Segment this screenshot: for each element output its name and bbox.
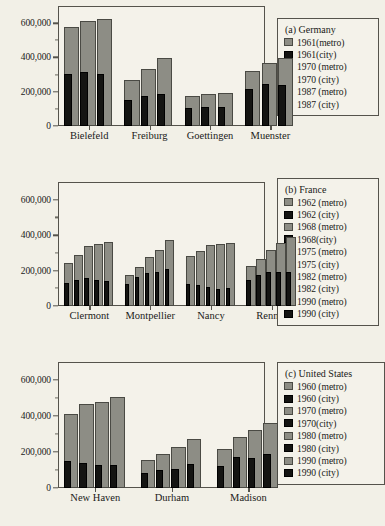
legend-item: 1990 (city): [284, 308, 372, 320]
y-axis-tick-mark: [53, 487, 58, 488]
bar-city: [135, 277, 140, 306]
y-axis-minor-tick: [55, 217, 58, 218]
legend-item: 1960 (metro): [284, 380, 378, 392]
legend-item-label: 1962 (city): [297, 209, 339, 220]
bar-city: [233, 457, 240, 488]
bar-city: [206, 287, 211, 306]
x-axis-category-label: Bielefeld: [70, 130, 108, 141]
y-axis-tick-mark: [53, 234, 58, 235]
bar-city: [187, 464, 194, 488]
x-axis-category-label: Muenster: [251, 130, 291, 141]
bar-city: [186, 284, 191, 306]
x-axis-tick-mark: [89, 306, 90, 310]
y-axis-tick-mark: [53, 125, 58, 126]
bar-city: [196, 285, 201, 306]
legend-item-label: 1987 (metro): [297, 86, 347, 97]
legend-item-label: 1990 (metro): [297, 296, 347, 307]
plot-area-germany: 0200,000400,000600,000BielefeldFreiburgG…: [58, 6, 265, 126]
legend-item-label: 1970 (metro): [297, 405, 347, 416]
legend-item: 1982 (city): [284, 283, 372, 295]
y-axis-tick-mark: [53, 451, 58, 452]
chart-panel-germany: 0200,000400,000600,000BielefeldFreiburgG…: [0, 0, 385, 168]
bar-city: [276, 272, 281, 306]
legend-item-label: 1968(city): [297, 234, 336, 245]
y-axis-tick-label: 600,000: [21, 195, 51, 205]
bar-city: [185, 108, 193, 126]
legend-item-label: 1980 (city): [297, 443, 339, 454]
y-axis-tick-mark: [53, 199, 58, 200]
legend-item-label: 1990 (city): [297, 308, 339, 319]
x-axis-tick-mark: [95, 488, 96, 492]
y-axis-minor-tick: [55, 74, 58, 75]
y-axis-minor-tick: [55, 433, 58, 434]
bar-city: [226, 288, 231, 306]
bar-city: [64, 283, 69, 306]
y-axis-tick-mark: [53, 305, 58, 306]
plot-area-united-states: 0200,000400,000600,000New HavenDurhamMad…: [58, 362, 265, 488]
bar-city: [84, 278, 89, 306]
legend-item: 1980 (metro): [284, 430, 378, 442]
bar-city: [145, 273, 150, 306]
legend-swatch-metro: [284, 223, 293, 231]
bar-city: [80, 72, 88, 126]
x-axis-tick-mark: [270, 126, 271, 130]
legend-swatch-city: [284, 469, 293, 477]
legend-item: 1970(city): [284, 417, 378, 429]
bar-city: [110, 465, 117, 488]
legend-item-label: 1961(metro): [297, 37, 344, 48]
legend-item: 1990 (city): [284, 467, 378, 479]
x-axis-category-label: Nancy: [197, 310, 224, 321]
x-axis-category-label: Montpellier: [125, 310, 175, 321]
y-axis-minor-tick: [55, 288, 58, 289]
legend-item: 1970 (city): [284, 73, 372, 85]
y-axis-tick-label: 0: [46, 121, 51, 131]
legend-swatch-city: [284, 395, 293, 403]
legend-item-label: 1975 (metro): [297, 246, 347, 257]
x-axis-tick-mark: [272, 306, 273, 310]
y-axis-tick-mark: [53, 415, 58, 416]
y-axis-tick-label: 400,000: [21, 230, 51, 240]
legend-swatch-metro: [284, 407, 293, 415]
legend-item-label: 1962 (metro): [297, 197, 347, 208]
y-axis-tick-label: 200,000: [21, 87, 51, 97]
bar-group: Nancy: [186, 182, 237, 306]
legend-item: 1970 (metro): [284, 61, 372, 73]
bar-city: [256, 275, 261, 306]
legend-item-label: 1970 (metro): [297, 61, 347, 72]
bar-city: [97, 74, 105, 126]
x-axis-tick-mark: [150, 306, 151, 310]
x-axis-category-label: Madison: [230, 492, 267, 503]
legend-swatch-metro: [284, 457, 293, 465]
bar-city: [165, 269, 170, 306]
legend-swatch-metro: [284, 38, 293, 46]
legend-swatch-city: [284, 211, 293, 219]
x-axis-category-label: New Haven: [70, 492, 120, 503]
y-axis-tick-mark: [53, 379, 58, 380]
legend-item: 1970 (metro): [284, 405, 378, 417]
x-axis-tick-mark: [89, 126, 90, 130]
bar-city: [245, 89, 253, 126]
legend-swatch-city: [284, 419, 293, 427]
bar-city: [141, 96, 149, 126]
bar-city: [216, 289, 221, 306]
bar-city: [125, 284, 130, 306]
bar-city: [218, 107, 226, 126]
legend-item: 1968(city): [284, 233, 372, 245]
legend-title: (a) Germany: [285, 24, 372, 35]
legend-item-label: 1975 (city): [297, 259, 339, 270]
y-axis-tick-label: 0: [46, 483, 51, 493]
legend-item: 1975 (metro): [284, 246, 372, 258]
legend-item-label: 1960 (metro): [297, 381, 347, 392]
chart-panel-united-states: 0200,000400,000600,000New HavenDurhamMad…: [0, 352, 385, 526]
y-axis-tick-label: 200,000: [21, 266, 51, 276]
y-axis-tick-label: 400,000: [21, 52, 51, 62]
legend-item-label: 1960 (city): [297, 393, 339, 404]
legend-item: 1975 (city): [284, 258, 372, 270]
x-axis-category-label: Clermont: [70, 310, 110, 321]
bar-city: [74, 280, 79, 306]
y-axis-minor-tick: [55, 40, 58, 41]
bar-city: [246, 280, 251, 306]
legend-item: 1962 (metro): [284, 196, 372, 208]
bar-city: [64, 74, 72, 126]
legend-swatch-metro: [284, 198, 293, 206]
